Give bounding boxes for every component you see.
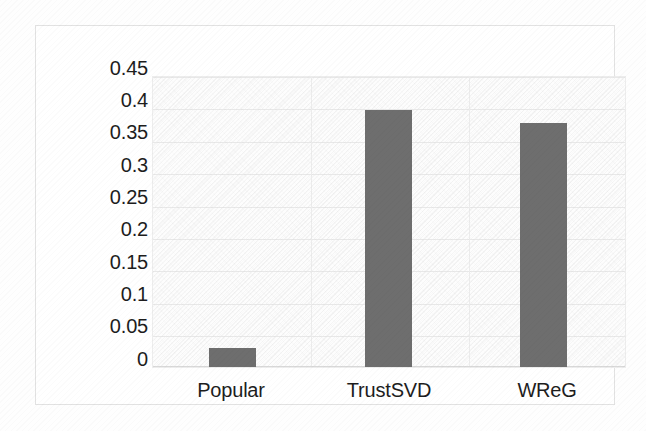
y-tick-label-7: 0.1 — [76, 284, 148, 304]
y-tick-label-5: 0.2 — [76, 219, 148, 239]
x-tick-label-trustsvd: TrustSVD — [310, 378, 468, 402]
y-tick-label-6: 0.15 — [76, 252, 148, 272]
y-axis: 0.45 0.4 0.35 0.3 0.25 0.2 0.15 0.1 0.05… — [76, 58, 148, 378]
y-tick-label-2: 0.35 — [76, 122, 148, 142]
y-tick-label-1: 0.4 — [76, 90, 148, 110]
bar-wreg[interactable] — [520, 123, 567, 367]
x-tick-label-popular: Popular — [152, 378, 310, 402]
category-divider-1 — [311, 77, 312, 367]
x-axis: Popular TrustSVD WReG — [152, 378, 626, 408]
x-tick-label-wreg: WReG — [468, 378, 626, 402]
y-tick-label-3: 0.3 — [76, 155, 148, 175]
bar-popular[interactable] — [209, 348, 256, 367]
bar-trustsvd[interactable] — [365, 110, 412, 367]
gridline-045 — [153, 77, 625, 78]
y-tick-label-8: 0.05 — [76, 316, 148, 336]
y-tick-label-9: 0 — [76, 349, 148, 369]
y-tick-label-4: 0.25 — [76, 187, 148, 207]
scanned-page-background: 0.45 0.4 0.35 0.3 0.25 0.2 0.15 0.1 0.05… — [0, 0, 646, 431]
y-tick-label-0: 0.45 — [76, 58, 148, 78]
category-divider-2 — [469, 77, 470, 367]
plot-area — [152, 76, 626, 368]
chart-frame: 0.45 0.4 0.35 0.3 0.25 0.2 0.15 0.1 0.05… — [35, 25, 615, 405]
